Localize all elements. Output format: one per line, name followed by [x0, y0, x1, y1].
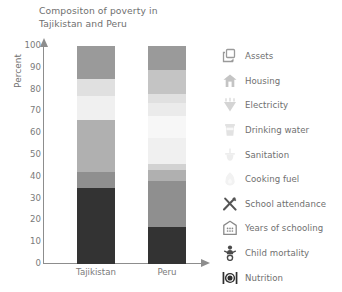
bar-peru[interactable]	[148, 46, 186, 263]
legend-item-label: Sanitation	[245, 150, 289, 160]
y-axis-ticks: 1009080706050403020100	[10, 0, 41, 292]
bar-segment-child-mortality	[77, 172, 115, 187]
bar-segment-nutrition	[148, 227, 186, 264]
legend-item-label: School attendance	[245, 199, 326, 209]
bar-segment-years-of-schooling	[77, 120, 115, 172]
legend-item-years-of-schooling[interactable]: Years of schooling	[221, 216, 342, 241]
bar-segment-assets	[77, 46, 115, 79]
bar-segment-sanitation	[148, 116, 186, 138]
bar-segment-assets	[148, 46, 186, 70]
plot-area: Percent 1009080706050403020100 Tajikista…	[0, 0, 215, 292]
y-axis-tick-70: 70	[15, 105, 41, 115]
legend-item-cooking-fuel[interactable]: Cooking fuel	[221, 167, 342, 192]
legend-item-electricity[interactable]: Electricity	[221, 93, 342, 118]
legend-item-sanitation[interactable]: Sanitation	[221, 142, 342, 167]
sanitation-icon	[221, 146, 238, 163]
y-axis-tick-50: 50	[15, 149, 41, 159]
y-axis-tick-100: 100	[15, 40, 41, 50]
legend-item-drinking-water[interactable]: Drinking water	[221, 118, 342, 143]
legend-item-label: Drinking water	[245, 125, 309, 135]
bar-segment-electricity	[148, 94, 186, 103]
electricity-icon	[221, 97, 238, 114]
legend-item-housing[interactable]: Housing	[221, 69, 342, 94]
bar-segment-drinking-water	[148, 103, 186, 116]
legend-item-child-mortality[interactable]: Child mortality	[221, 241, 342, 266]
legend-item-assets[interactable]: Assets	[221, 44, 342, 69]
y-axis-tick-40: 40	[15, 171, 41, 181]
nutrition-icon	[221, 269, 238, 286]
legend-item-label: Nutrition	[245, 273, 283, 283]
legend-item-label: Assets	[245, 51, 273, 61]
legend-item-nutrition[interactable]: Nutrition	[221, 265, 342, 290]
years-of-schooling-icon	[221, 220, 238, 237]
bar-segment-housing	[148, 70, 186, 94]
x-axis-label-peru: Peru	[127, 267, 207, 277]
y-axis-tick-60: 60	[15, 127, 41, 137]
legend-item-label: Years of schooling	[245, 223, 323, 233]
school-attendance-icon	[221, 195, 238, 212]
legend-item-label: Housing	[245, 76, 280, 86]
legend-item-school-attendance[interactable]: School attendance	[221, 192, 342, 217]
bar-segment-child-mortality	[148, 181, 186, 227]
bar-segment-cooking-fuel	[77, 96, 115, 120]
y-axis-tick-0: 0	[15, 258, 41, 268]
x-axis-label-tajikistan: Tajikistan	[56, 267, 136, 277]
x-axis-arrow-icon	[201, 259, 210, 267]
cooking-fuel-icon	[221, 171, 238, 188]
y-axis-line	[43, 45, 44, 264]
y-axis-tick-20: 20	[15, 214, 41, 224]
y-axis-tick-90: 90	[15, 62, 41, 72]
bar-segment-electricity	[77, 79, 115, 96]
drinking-water-icon	[221, 122, 238, 139]
housing-icon	[221, 72, 238, 89]
legend-item-label: Electricity	[245, 100, 288, 110]
bar-segment-cooking-fuel	[148, 138, 186, 164]
child-mortality-icon	[221, 245, 238, 262]
y-axis-tick-80: 80	[15, 84, 41, 94]
bar-tajikistan[interactable]	[77, 46, 115, 263]
legend-item-label: Child mortality	[245, 248, 309, 258]
legend-item-label: Cooking fuel	[245, 174, 299, 184]
y-axis-tick-10: 10	[15, 236, 41, 246]
assets-icon	[221, 48, 238, 65]
bar-segment-years-of-schooling	[148, 170, 186, 181]
legend: AssetsHousingElectricityDrinking waterSa…	[221, 44, 342, 290]
y-axis-tick-30: 30	[15, 193, 41, 203]
bar-segment-nutrition	[77, 188, 115, 264]
